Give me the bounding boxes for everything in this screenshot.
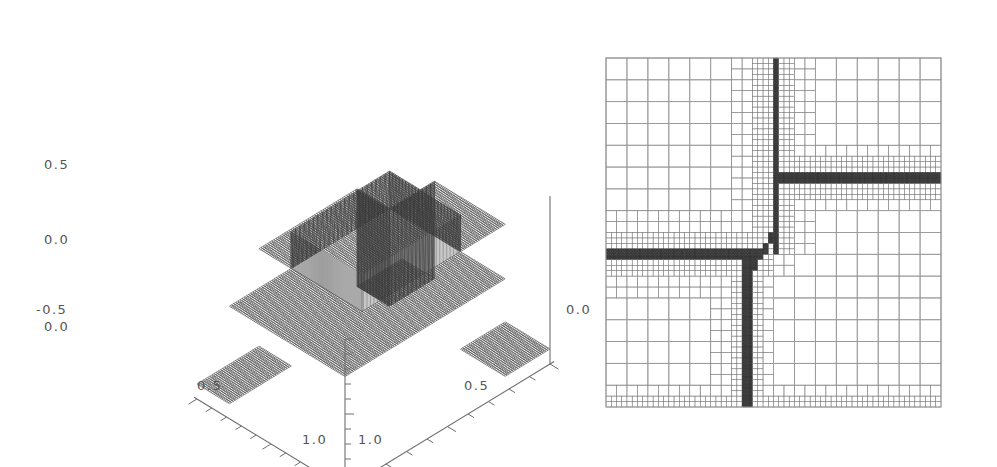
x-tick-label-0.0: 0.0 xyxy=(44,320,69,333)
y-tick-label-1.0: 1.0 xyxy=(358,433,383,446)
z-tick-label--0.5: -0.5 xyxy=(36,303,67,316)
x-tick-label-1.0: 1.0 xyxy=(302,433,327,446)
x-tick-label-0.5: 0.5 xyxy=(197,379,222,392)
surface-plot-canvas xyxy=(0,0,600,467)
amr-mesh-panel xyxy=(600,0,997,467)
y-tick-label-0.5: 0.5 xyxy=(464,379,489,392)
amr-mesh-canvas xyxy=(600,0,997,467)
surface-plot-panel: 0.5 0.0 -0.5 0.0 0.5 1.0 1.0 0.5 0.0 xyxy=(0,0,600,467)
y-tick-label-0.0: 0.0 xyxy=(566,303,591,316)
figure-root: 0.5 0.0 -0.5 0.0 0.5 1.0 1.0 0.5 0.0 xyxy=(0,0,997,467)
z-tick-label-0.5: 0.5 xyxy=(44,158,69,171)
z-tick-label-0.0: 0.0 xyxy=(44,233,69,246)
